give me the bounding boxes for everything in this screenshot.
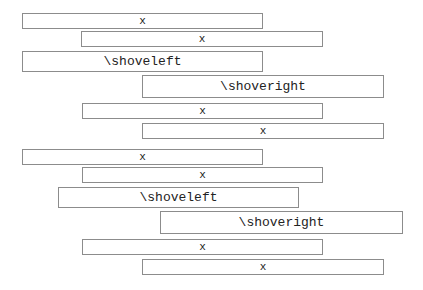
box-label: x <box>260 261 267 273</box>
box-shoveleft: \shoveleft <box>22 51 263 72</box>
box-x: x <box>82 103 323 119</box>
box-x: x <box>22 149 263 165</box>
box-label: \shoveright <box>220 79 306 94</box>
box-x: x <box>22 13 263 29</box>
box-shoveright: \shoveright <box>142 75 384 98</box>
box-x: x <box>81 31 323 47</box>
box-label: x <box>260 125 267 137</box>
box-label: x <box>199 33 206 45</box>
box-x: x <box>142 259 384 275</box>
box-x: x <box>142 123 384 139</box>
box-label: \shoveleft <box>103 54 181 69</box>
box-shoveright: \shoveright <box>160 211 403 234</box>
box-label: x <box>199 241 206 253</box>
box-x: x <box>82 239 323 255</box>
box-label: x <box>139 15 146 27</box>
box-label: \shoveright <box>239 215 325 230</box>
box-shoveleft: \shoveleft <box>58 187 299 208</box>
box-x: x <box>82 167 323 183</box>
box-label: x <box>139 151 146 163</box>
box-label: x <box>199 105 206 117</box>
box-label: x <box>199 169 206 181</box>
box-label: \shoveleft <box>139 190 217 205</box>
